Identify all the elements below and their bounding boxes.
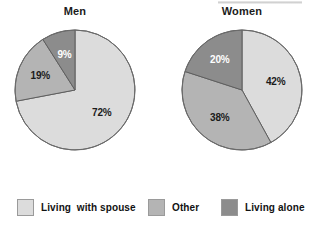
legend-item-living-alone: Living alone: [221, 196, 305, 218]
pie-label-women-2: 20%: [210, 54, 229, 65]
legend-label-living-with-spouse: Living with spouse: [41, 202, 136, 213]
pie-svg-men: [13, 28, 137, 152]
pie-chart-figure: Men 72%19%9% Women 42%38%20% Living with…: [0, 0, 311, 229]
legend-swatch-living-with-spouse: [17, 199, 34, 216]
legend-swatch-other: [148, 199, 165, 216]
legend-swatch-living-alone: [221, 199, 238, 216]
pie-label-men-0: 72%: [92, 107, 111, 118]
pie-label-men-2: 9%: [57, 48, 71, 59]
legend-item-living-with-spouse: Living with spouse: [17, 196, 136, 218]
legend-item-other: Other: [148, 196, 199, 218]
legend: Living with spouse Other Living alone: [0, 196, 311, 224]
pie-label-men-1: 19%: [31, 70, 50, 81]
pie-label-women-1: 38%: [210, 111, 229, 122]
chart-women-title: Women: [167, 5, 311, 17]
pie-svg-women: [180, 28, 304, 152]
pie-label-women-0: 42%: [266, 76, 285, 87]
chart-men-title: Men: [0, 5, 150, 17]
chart-women: Women 42%38%20%: [167, 0, 311, 170]
pie-women: 42%38%20%: [180, 28, 304, 152]
pie-men: 72%19%9%: [13, 28, 137, 152]
chart-men: Men 72%19%9%: [0, 0, 150, 170]
legend-label-living-alone: Living alone: [245, 202, 305, 213]
legend-label-other: Other: [172, 202, 199, 213]
